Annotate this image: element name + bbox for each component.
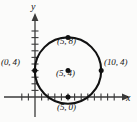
point-label-center: (5, 4) xyxy=(56,68,75,78)
circle-graph-figure: (0, 4) (10, 4) (5, 8) (5, 4) (5, 0) x y xyxy=(0,0,137,122)
point-left xyxy=(32,68,37,73)
point-label-bottom: (5, 0) xyxy=(57,102,76,112)
point-right xyxy=(99,68,104,73)
x-axis-label: x xyxy=(126,92,130,103)
y-axis-label: y xyxy=(31,1,35,12)
y-axis-arrowhead xyxy=(32,13,39,21)
point-bottom xyxy=(66,95,71,100)
point-label-left: (0, 4) xyxy=(1,57,20,67)
point-label-right: (10, 4) xyxy=(104,57,127,67)
point-label-top: (5, 8) xyxy=(57,36,76,46)
